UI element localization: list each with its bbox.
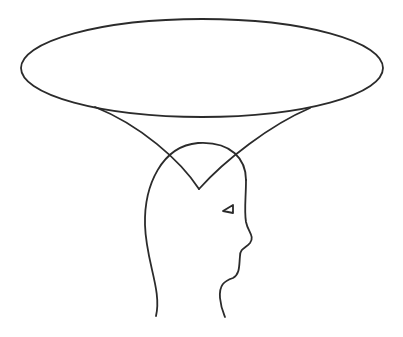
- head-funnel-drawing: [0, 0, 403, 337]
- background: [0, 0, 403, 337]
